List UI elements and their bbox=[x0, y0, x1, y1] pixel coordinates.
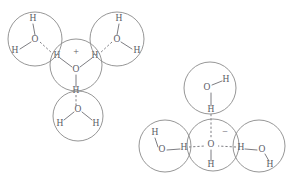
covalent-bond bbox=[82, 112, 92, 120]
water-lower: OHH bbox=[53, 91, 103, 141]
atom-label-h: H bbox=[116, 13, 123, 23]
water-top: OHH bbox=[184, 62, 236, 114]
covalent-bond bbox=[60, 58, 72, 67]
ion-charge-label: + bbox=[73, 46, 79, 57]
hydroxide-core: OH− bbox=[187, 119, 239, 171]
atom-label-h: H bbox=[57, 118, 64, 128]
water-upper-left: OHH bbox=[8, 12, 62, 66]
hydrogen-bond bbox=[40, 42, 53, 54]
atom-label-h: H bbox=[73, 85, 80, 95]
hydronium-core: OHHH+ bbox=[50, 39, 102, 95]
atom-label-h: H bbox=[208, 159, 215, 169]
diagram-canvas: OHHH+OHHOHHOHHOH−OHHOHHOHH bbox=[0, 0, 287, 187]
molecular-diagram: OHHH+OHHOHHOHHOH−OHHOHHOHH bbox=[0, 0, 287, 187]
atom-label-h: H bbox=[30, 13, 37, 23]
ion-charge-label: − bbox=[222, 126, 228, 137]
atom-label-o: O bbox=[73, 64, 80, 74]
covalent-bond bbox=[245, 149, 257, 150]
atom-label-h: H bbox=[223, 74, 230, 84]
covalent-bond bbox=[80, 58, 92, 67]
atom-label-o: O bbox=[114, 34, 121, 44]
atom-label-o: O bbox=[159, 144, 166, 154]
atom-label-h: H bbox=[208, 104, 215, 114]
atom-label-o: O bbox=[208, 139, 215, 149]
covalent-bond bbox=[155, 138, 158, 147]
atom-label-h: H bbox=[12, 45, 19, 55]
atom-label-h: H bbox=[134, 45, 141, 55]
hydrogen-bond bbox=[99, 42, 112, 54]
atom-label-o: O bbox=[204, 82, 211, 92]
water-left: OHH bbox=[139, 120, 191, 172]
hydrated-hydronium-ion: OHHH+OHHOHHOHH bbox=[8, 12, 144, 141]
covalent-bond bbox=[167, 149, 180, 150]
hydrated-hydroxide-ion: OH−OHHOHHOHH bbox=[139, 62, 285, 172]
water-right: OHH bbox=[233, 120, 285, 172]
atom-label-h: H bbox=[238, 142, 245, 152]
covalent-bond bbox=[20, 42, 31, 49]
atom-label-h: H bbox=[181, 142, 188, 152]
molecule-shell-circle bbox=[53, 91, 103, 141]
atom-label-h: H bbox=[267, 159, 274, 169]
atom-label-o: O bbox=[75, 104, 82, 114]
atom-label-o: O bbox=[259, 144, 266, 154]
atom-label-h: H bbox=[93, 118, 100, 128]
covalent-bond bbox=[64, 112, 74, 120]
structures-group: OHHH+OHHOHHOHHOH−OHHOHHOHH bbox=[8, 12, 285, 172]
atom-label-h: H bbox=[152, 127, 159, 137]
water-upper-right: OHH bbox=[90, 12, 144, 66]
covalent-bond bbox=[121, 42, 132, 49]
covalent-bond bbox=[212, 81, 222, 85]
atom-label-o: O bbox=[32, 34, 39, 44]
